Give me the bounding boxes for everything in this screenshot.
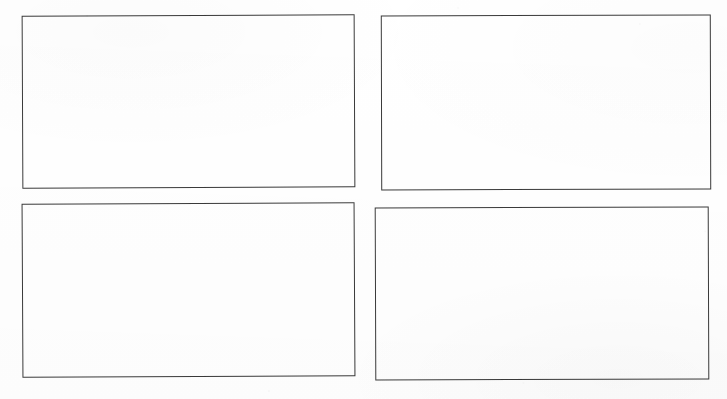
panel-bottom-right[interactable] xyxy=(375,206,710,380)
panel-bottom-left-content xyxy=(23,203,355,377)
panel-bottom-left[interactable] xyxy=(22,202,356,378)
panel-top-right-content xyxy=(382,16,710,190)
panel-top-left-content xyxy=(23,15,355,187)
panel-bottom-right-content xyxy=(376,207,709,379)
worksheet-page xyxy=(0,0,727,399)
panel-top-right[interactable] xyxy=(381,15,711,191)
panel-top-left[interactable] xyxy=(22,14,356,188)
